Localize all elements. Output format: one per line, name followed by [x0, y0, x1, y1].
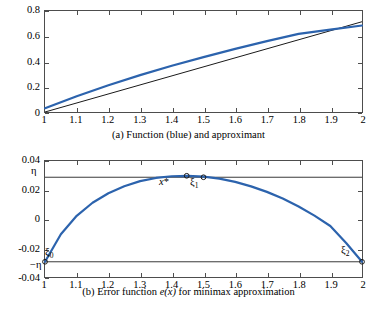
panel-b-curves — [45, 161, 362, 277]
figure-minimax-approximation: 0 0.2 0.4 0.6 0.8 — [0, 0, 377, 316]
xi2-subscript: 2 — [346, 249, 350, 258]
approximant-line-black — [45, 22, 362, 112]
x-tick-label: 1.7 — [261, 115, 274, 126]
x-tick-label: 1.6 — [229, 115, 242, 126]
plot-area-a — [44, 10, 363, 113]
xstar-superscript: * — [164, 176, 169, 187]
y-tick-label: -0.02 — [18, 243, 40, 254]
y-tick-label: 0.8 — [27, 5, 40, 16]
caption-b-prefix: (b) Error function — [82, 286, 159, 297]
x-tick-label: 1 — [41, 115, 46, 126]
x-tick-label: 1.2 — [101, 115, 114, 126]
y-tick-label: 0.4 — [27, 56, 40, 67]
y-tick-label: 0.02 — [22, 184, 40, 195]
panel-a-function-and-approximant: 0 0.2 0.4 0.6 0.8 — [0, 0, 377, 140]
caption-b-math: e(x) — [160, 286, 176, 297]
annotation-eta-lower: −η — [30, 260, 41, 271]
annotation-x-star: x* — [159, 177, 169, 188]
panel-b-error-function: 0.04 0.02 0 -0.02 -0.04 — [0, 150, 377, 300]
x-tick-label: 2 — [360, 115, 365, 126]
x-tick-label: 1.9 — [325, 115, 338, 126]
x-tick-label: 1.3 — [133, 115, 146, 126]
error-function-curve — [45, 176, 362, 262]
xi1-subscript: 1 — [195, 181, 199, 190]
y-tick-label: 0.6 — [27, 31, 40, 42]
x-tick-label: 1.4 — [165, 115, 178, 126]
x-tick-label: 1.8 — [293, 115, 306, 126]
caption-panel-a: (a) Function (blue) and approximant — [0, 130, 377, 141]
x-tick-label: 1.5 — [197, 115, 210, 126]
y-tick-label: 0 — [35, 214, 40, 225]
panel-a-x-axis-labels: 1 1.1 1.2 1.3 1.4 1.5 1.6 1.7 1.8 1.9 2 — [0, 115, 377, 129]
xi0-subscript: 0 — [50, 251, 54, 260]
caption-b-suffix: for minimax approximation — [176, 286, 295, 297]
panel-a-curves — [45, 11, 362, 112]
y-tick-label: 0.2 — [27, 82, 40, 93]
annotation-eta-upper: η — [31, 166, 37, 177]
annotation-xi-2: ξ2 — [341, 245, 349, 258]
plot-area-b — [44, 160, 363, 278]
y-tick-label: 0.04 — [22, 155, 40, 166]
annotation-xi-0: ξ0 — [45, 247, 53, 260]
caption-panel-b: (b) Error function e(x) for minimax appr… — [0, 287, 377, 298]
equioscillation-markers — [43, 173, 365, 264]
annotation-xi-1: ξ1 — [190, 177, 198, 190]
x-tick-label: 1.1 — [69, 115, 82, 126]
